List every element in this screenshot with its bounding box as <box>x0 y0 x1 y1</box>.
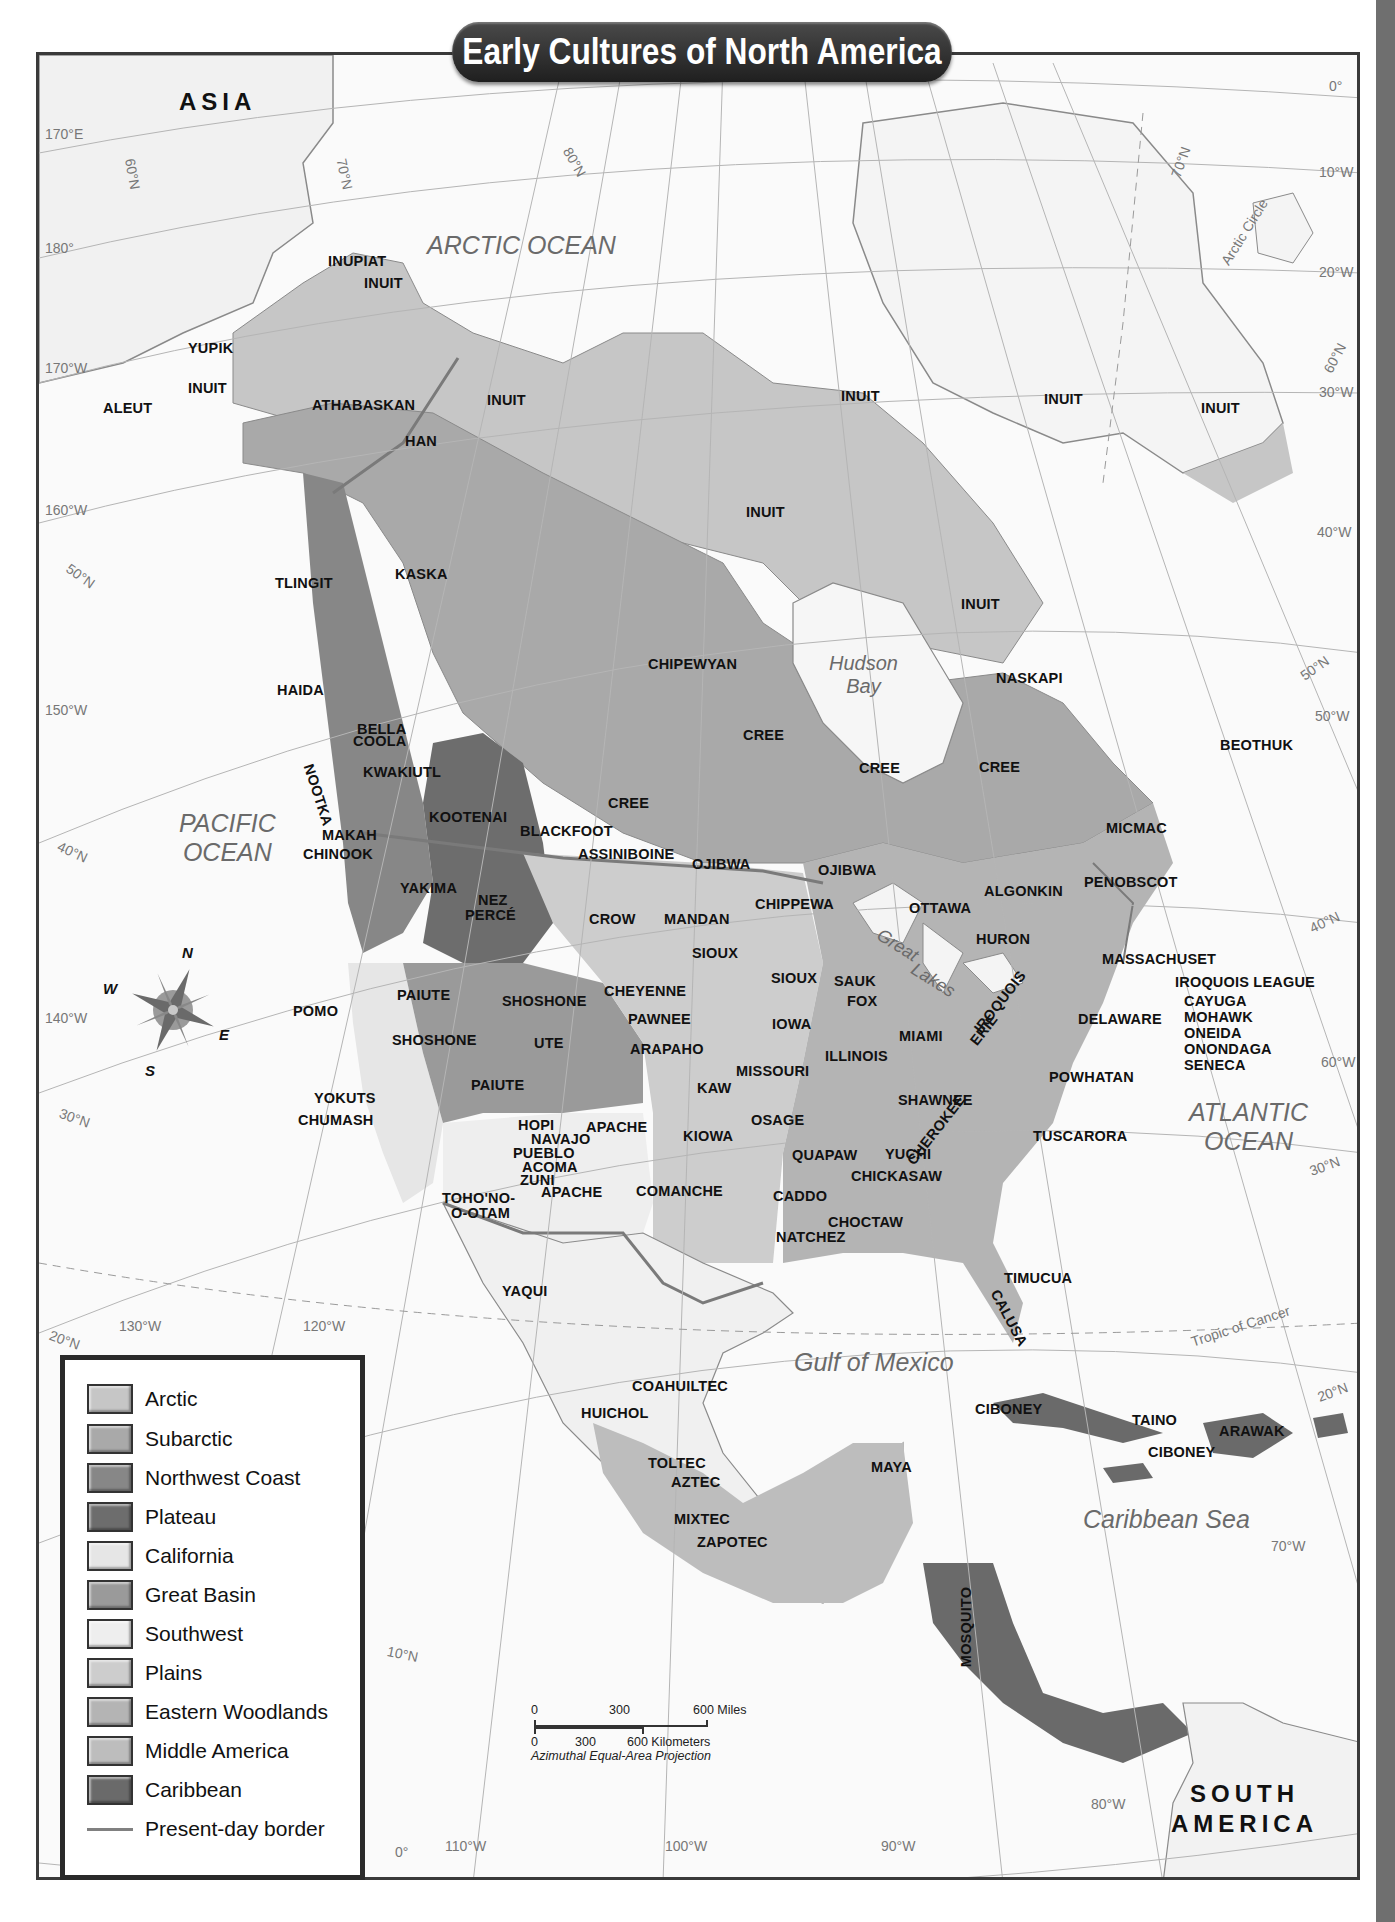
legend-label: Southwest <box>145 1622 243 1646</box>
culture-label: HURON <box>976 932 1030 947</box>
culture-label: PERCÉ <box>465 908 516 923</box>
culture-label: CHUMASH <box>298 1113 374 1128</box>
grid-140w: 140°W <box>45 1011 87 1025</box>
swatch-california <box>87 1541 133 1571</box>
culture-label: HUICHOL <box>581 1406 648 1421</box>
legend-item-eastern-woodlands: Eastern Woodlands <box>87 1695 328 1729</box>
culture-label: SIOUX <box>692 946 738 961</box>
scale-km-300: 300 <box>575 1735 596 1749</box>
culture-label: MOHAWK <box>1184 1010 1253 1025</box>
scale-km-bar <box>534 1727 644 1734</box>
legend-label: Northwest Coast <box>145 1466 300 1490</box>
culture-label: SENECA <box>1184 1058 1246 1073</box>
grid-70w: 70°W <box>1271 1539 1305 1553</box>
culture-label: CIBONEY <box>1148 1445 1215 1460</box>
culture-label: ARAWAK <box>1219 1424 1285 1439</box>
compass-s: S <box>145 1062 155 1079</box>
culture-label: KIOWA <box>683 1129 733 1144</box>
grid-100w: 100°W <box>665 1839 707 1853</box>
culture-label: NASKAPI <box>996 671 1063 686</box>
compass-e: E <box>219 1026 229 1043</box>
grid-0-lon: 0° <box>1329 79 1342 93</box>
swatch-southwest <box>87 1619 133 1649</box>
culture-label: SHOSHONE <box>392 1033 477 1048</box>
culture-label: COOLA <box>353 734 406 749</box>
culture-label: TOLTEC <box>648 1456 706 1471</box>
culture-label: ILLINOIS <box>825 1049 888 1064</box>
pacific-line1: PACIFIC <box>179 809 276 838</box>
culture-label: PAIUTE <box>397 988 450 1003</box>
culture-label: APACHE <box>541 1185 602 1200</box>
legend-item-present-day-border: Present-day border <box>87 1812 325 1846</box>
swatch-subarctic <box>87 1424 133 1454</box>
culture-label: POWHATAN <box>1049 1070 1134 1085</box>
culture-label: ARAPAHO <box>630 1042 704 1057</box>
scale-miles-300: 300 <box>609 1703 630 1717</box>
caribbean-sea-label: Caribbean Sea <box>1083 1505 1250 1534</box>
legend-label: Plains <box>145 1661 202 1685</box>
scale-km-0: 0 <box>531 1735 538 1749</box>
culture-label: MICMAC <box>1106 821 1167 836</box>
compass-w: W <box>103 980 117 997</box>
pacific-line2: OCEAN <box>179 838 276 867</box>
culture-label: INUIT <box>961 597 1000 612</box>
hudson-line2: Bay <box>829 675 898 698</box>
legend-item-plateau: Plateau <box>87 1500 216 1534</box>
culture-label: INUIT <box>364 276 403 291</box>
compass-star-icon <box>123 960 223 1060</box>
culture-label: KAW <box>697 1081 731 1096</box>
hudson-bay-label: Hudson Bay <box>829 652 898 698</box>
culture-label: CREE <box>608 796 649 811</box>
border-line-icon <box>87 1828 133 1831</box>
culture-label: SAUK <box>834 974 876 989</box>
legend-item-plains: Plains <box>87 1656 202 1690</box>
culture-label: MIAMI <box>899 1029 943 1044</box>
south-america-line1: SOUTH <box>1171 1779 1318 1809</box>
legend-label: Great Basin <box>145 1583 256 1607</box>
culture-label: MAKAH <box>322 828 377 843</box>
culture-label: SHOSHONE <box>502 994 587 1009</box>
swatch-northwest-coast <box>87 1463 133 1493</box>
grid-20w: 20°W <box>1319 265 1353 279</box>
culture-label: PAWNEE <box>628 1012 691 1027</box>
culture-label: CHEYENNE <box>604 984 686 999</box>
culture-label: OSAGE <box>751 1113 804 1128</box>
culture-label: KASKA <box>395 567 448 582</box>
grid-0-lat: 0° <box>395 1845 408 1859</box>
grid-80w: 80°W <box>1091 1797 1125 1811</box>
culture-label: PENOBSCOT <box>1084 875 1178 890</box>
culture-label: QUAPAW <box>792 1148 857 1163</box>
culture-label: ONEIDA <box>1184 1026 1242 1041</box>
culture-label: TAINO <box>1132 1413 1177 1428</box>
map-title: Early Cultures of North America <box>452 22 952 82</box>
culture-label: YOKUTS <box>314 1091 376 1106</box>
grid-160w: 160°W <box>45 503 87 517</box>
grid-10w: 10°W <box>1319 165 1353 179</box>
legend-label: Plateau <box>145 1505 216 1529</box>
culture-label: CHINOOK <box>303 847 373 862</box>
culture-label: CREE <box>743 728 784 743</box>
culture-label: CHOCTAW <box>828 1215 903 1230</box>
legend-item-caribbean: Caribbean <box>87 1773 242 1807</box>
culture-label: TLINGIT <box>275 576 333 591</box>
culture-label: ALGONKIN <box>984 884 1063 899</box>
grid-120w: 120°W <box>303 1319 345 1333</box>
legend-item-northwest-coast: Northwest Coast <box>87 1461 300 1495</box>
legend-label: Middle America <box>145 1739 289 1763</box>
scale-projection: Azimuthal Equal-Area Projection <box>531 1749 711 1763</box>
culture-label: FOX <box>847 994 877 1009</box>
grid-170w: 170°W <box>45 361 87 375</box>
culture-label: DELAWARE <box>1078 1012 1162 1027</box>
grid-40w: 40°W <box>1317 525 1351 539</box>
legend-item-california: California <box>87 1539 234 1573</box>
culture-label: KWAKIUTL <box>363 765 441 780</box>
grid-60w: 60°W <box>1321 1055 1355 1069</box>
culture-label: O-OTAM <box>451 1206 510 1221</box>
scale-km-600: 600 Kilometers <box>627 1735 710 1749</box>
legend-item-great-basin: Great Basin <box>87 1578 256 1612</box>
culture-label: UTE <box>534 1036 564 1051</box>
legend-label: Present-day border <box>145 1817 325 1841</box>
grid-90w: 90°W <box>881 1839 915 1853</box>
culture-label: CHICKASAW <box>851 1169 942 1184</box>
hudson-line1: Hudson <box>829 652 898 675</box>
